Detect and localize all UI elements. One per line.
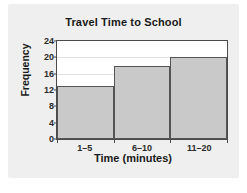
bar <box>57 86 114 139</box>
bar-cell <box>170 41 227 139</box>
y-tick-label: 24 <box>44 36 54 46</box>
bar <box>170 57 227 139</box>
bar-cell <box>114 41 171 139</box>
bar-series <box>57 41 227 139</box>
y-tick-label: 0 <box>49 134 54 144</box>
bar <box>114 66 171 140</box>
y-tick-label: 4 <box>49 118 54 128</box>
chart-card: Travel Time to School Frequency 04812162… <box>8 4 239 178</box>
y-axis-label: Frequency <box>19 20 31 120</box>
y-tick-label: 8 <box>49 101 54 111</box>
x-axis-label: Time (minutes) <box>38 152 228 164</box>
plot-area: 04812162024 <box>56 40 228 140</box>
bar-cell <box>57 41 114 139</box>
y-tick-label: 16 <box>44 69 54 79</box>
y-tick-label: 20 <box>44 52 54 62</box>
y-tick-label: 12 <box>44 85 54 95</box>
chart-title: Travel Time to School <box>8 16 239 28</box>
